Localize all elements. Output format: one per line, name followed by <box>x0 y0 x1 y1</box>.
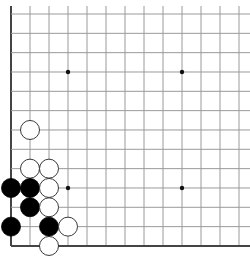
white-stone <box>59 217 78 236</box>
white-stone <box>40 159 59 178</box>
star-point-icon <box>180 186 184 190</box>
white-stone <box>21 120 40 139</box>
star-point-icon <box>66 70 70 74</box>
white-stone <box>21 159 40 178</box>
black-stone <box>2 178 21 197</box>
black-stone <box>40 217 59 236</box>
white-stone <box>40 236 59 255</box>
go-board[interactable] <box>0 0 250 260</box>
star-point-icon <box>66 186 70 190</box>
star-point-icon <box>180 70 184 74</box>
black-stone <box>21 178 40 197</box>
white-stone <box>40 198 59 217</box>
black-stone <box>2 217 21 236</box>
white-stone <box>40 178 59 197</box>
black-stone <box>21 198 40 217</box>
